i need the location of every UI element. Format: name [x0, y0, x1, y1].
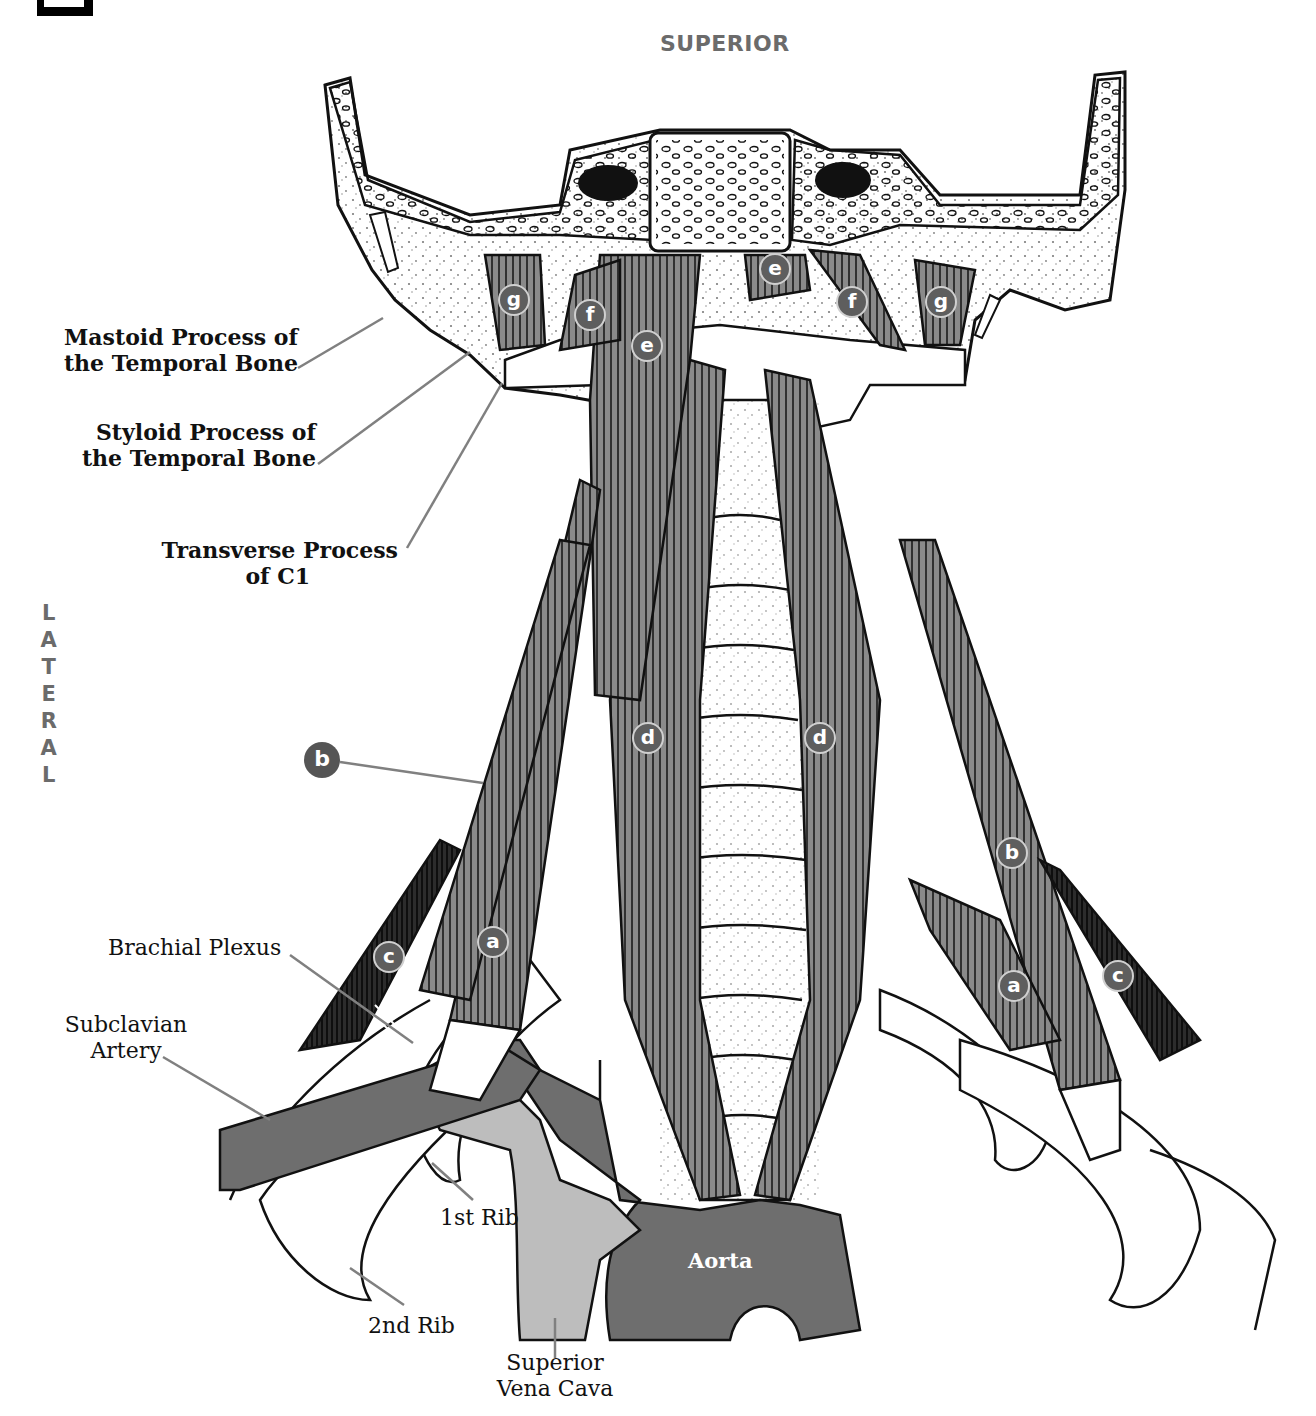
label-superior-vena-cava: Superior Vena Cava	[495, 1350, 615, 1402]
marker-b: b	[996, 837, 1028, 869]
label-brachial-plexus: Brachial Plexus	[108, 935, 281, 961]
label-transverse-line2: of C1	[140, 563, 398, 589]
label-svc-line2: Vena Cava	[495, 1376, 615, 1402]
brachial-plexus	[370, 998, 415, 1050]
anatomy-diagram	[0, 0, 1316, 1416]
marker-e: e	[759, 253, 791, 285]
label-transverse-process-c1: Transverse Process of C1	[140, 537, 398, 589]
marker-g: g	[925, 286, 957, 318]
marker-d: d	[632, 722, 664, 754]
label-transverse-line1: Transverse Process	[162, 537, 398, 563]
marker-f: f	[836, 286, 868, 318]
marker-d: d	[804, 722, 836, 754]
label-aorta: Aorta	[688, 1248, 753, 1274]
label-subclavian-line1: Subclavian	[56, 1012, 196, 1038]
marker-f: f	[574, 299, 606, 331]
marker-e: e	[631, 330, 663, 362]
marker-c: c	[373, 941, 405, 973]
label-mastoid-process: Mastoid Process of the Temporal Bone	[30, 324, 298, 376]
page-corner-mark	[37, 0, 93, 16]
orientation-superior: SUPERIOR	[660, 31, 790, 56]
anatomy-illustration	[0, 0, 1316, 1416]
orientation-lateral: L A T E R A L	[38, 600, 60, 789]
label-svc-line1: Superior	[495, 1350, 615, 1376]
marker-b-callout: b	[304, 742, 340, 778]
label-first-rib: 1st Rib	[440, 1205, 519, 1231]
marker-c: c	[1102, 960, 1134, 992]
label-second-rib: 2nd Rib	[368, 1313, 455, 1339]
marker-a: a	[477, 926, 509, 958]
label-styloid-process: Styloid Process of the Temporal Bone	[60, 419, 316, 471]
marker-g: g	[498, 284, 530, 316]
label-subclavian-artery: Subclavian Artery	[56, 1012, 196, 1064]
marker-a: a	[998, 970, 1030, 1002]
label-subclavian-line2: Artery	[56, 1038, 196, 1064]
